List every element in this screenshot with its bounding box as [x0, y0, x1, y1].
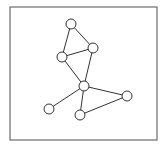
- graph-node: [66, 19, 76, 29]
- graph-edge: [49, 86, 84, 109]
- graph-edge: [84, 48, 93, 86]
- graph-node: [79, 81, 89, 91]
- graph-node: [122, 91, 132, 101]
- graph-edge: [80, 96, 127, 115]
- graph-diagram: [0, 0, 166, 146]
- edge-group: [49, 24, 127, 115]
- graph-node: [44, 104, 54, 114]
- graph-edge: [84, 86, 127, 96]
- graph-node: [57, 52, 67, 62]
- diagram-frame: [10, 7, 157, 140]
- graph-node: [88, 43, 98, 53]
- graph-node: [75, 110, 85, 120]
